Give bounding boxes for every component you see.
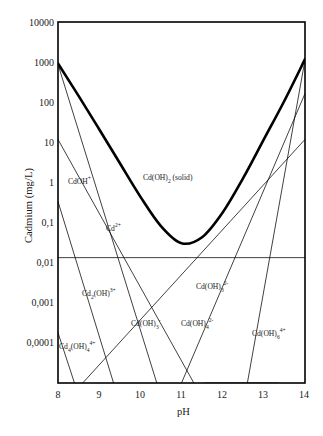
annotation-cd_oh_3_2minus: Cd(OH)32- — [196, 283, 228, 291]
series-line — [58, 59, 305, 244]
solubility-chart: Cadmium (mg/L) 10000 1000 100 10 1 0,1 0… — [0, 0, 323, 436]
y-tick-0.0001: 0,0001 — [27, 338, 55, 348]
y-axis-tick-labels: 10000 1000 100 10 1 0,1 0,01 0,001 0,000… — [6, 0, 54, 436]
y-tick-10: 10 — [44, 138, 54, 148]
annotation-cd4_oh_4_4plus: Cd4(OH)44+ — [59, 343, 95, 351]
y-tick-0.001: 0,001 — [32, 298, 55, 308]
x-tick-11: 11 — [166, 390, 196, 400]
series-line — [58, 333, 74, 383]
annotation-cdoh_plus: CdOH+ — [68, 178, 91, 186]
x-axis-title: pH — [0, 406, 323, 417]
annotation-cd_2plus: Cd2+ — [106, 225, 121, 233]
y-tick-100: 100 — [39, 98, 54, 108]
x-tick-12: 12 — [207, 390, 237, 400]
annotation-cd_oh_4_2minus: Cd(OH)42- — [181, 320, 213, 328]
annotation-cd_oh_2_solid: Cd(OH)2 (solid) — [143, 174, 192, 182]
annotation-cd2_oh_3plus: Cd2(OH)3+ — [82, 290, 116, 298]
series-line — [83, 139, 305, 383]
x-tick-10: 10 — [125, 390, 155, 400]
x-tick-14: 14 — [289, 390, 319, 400]
y-tick-0.01: 0,01 — [37, 258, 55, 268]
y-tick-0.1: 0,1 — [42, 218, 55, 228]
annotation-cd_oh_6_4plus: Cd(OH)64+ — [252, 330, 286, 338]
x-tick-13: 13 — [248, 390, 278, 400]
x-tick-8: 8 — [43, 390, 73, 400]
y-tick-1: 1 — [49, 178, 54, 188]
annotation-cd_oh_3_minus: Cd(OH)3- — [131, 320, 161, 328]
y-tick-1000: 1000 — [34, 58, 54, 68]
y-tick-10000: 10000 — [29, 18, 54, 28]
x-tick-9: 9 — [84, 390, 114, 400]
